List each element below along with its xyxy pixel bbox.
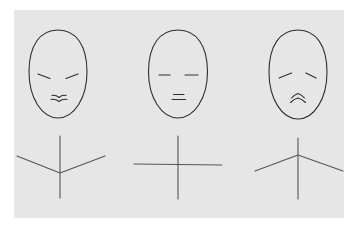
diagram-canvas: happy neutral sad xyxy=(0,0,357,232)
paper-background xyxy=(14,10,344,218)
faces-and-postures-diagram xyxy=(0,0,357,232)
